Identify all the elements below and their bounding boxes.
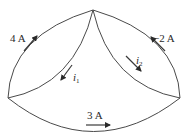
label-3A: 3 A (87, 110, 103, 121)
branch-outer-left (8, 10, 93, 98)
label-i1-sub: 1 (76, 77, 80, 85)
branch-inner-left (8, 10, 93, 98)
label-i2-sub: 2 (139, 60, 143, 68)
label-i2: i2 (136, 55, 143, 68)
label-4A: 4 A (10, 33, 26, 44)
label-neg2A: −2 A (153, 33, 175, 44)
label-i1: i1 (73, 72, 80, 85)
arrow-i1-icon (61, 65, 72, 80)
circuit-diagram: 4 A −2 A 3 A i1 i2 (0, 0, 190, 136)
